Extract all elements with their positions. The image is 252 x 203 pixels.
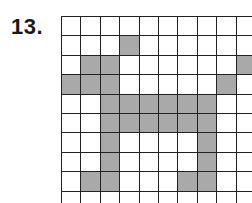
grid-cell — [62, 133, 81, 152]
grid-cell — [237, 172, 252, 191]
grid-cell — [198, 17, 217, 36]
grid-cell — [62, 153, 81, 172]
grid-cell — [178, 133, 197, 152]
grid-cell — [101, 36, 120, 55]
grid-cell-shaded — [159, 114, 178, 133]
grid-cell — [140, 56, 159, 75]
grid-cell — [140, 153, 159, 172]
grid-cell-shaded — [178, 172, 197, 191]
grid-cell-shaded — [120, 114, 139, 133]
grid-cell-shaded — [101, 56, 120, 75]
grid-cell — [237, 95, 252, 114]
grid-cell — [237, 192, 252, 203]
grid-cell — [62, 172, 81, 191]
grid-cell-shaded — [237, 56, 252, 75]
grid-cell-shaded — [178, 114, 197, 133]
grid-cell — [237, 114, 252, 133]
grid-cell — [217, 172, 236, 191]
grid-cell — [120, 153, 139, 172]
grid-cell — [217, 133, 236, 152]
grid-cell-shaded — [198, 114, 217, 133]
grid-cell — [62, 95, 81, 114]
grid-cell — [62, 192, 81, 203]
grid-cell — [81, 36, 100, 55]
grid-cell — [159, 153, 178, 172]
grid-cell-shaded — [217, 75, 236, 94]
grid-cell — [178, 56, 197, 75]
grid-cell — [140, 192, 159, 203]
grid-cell — [62, 36, 81, 55]
grid-cell-shaded — [178, 95, 197, 114]
grid-cell-shaded — [101, 153, 120, 172]
grid-cell — [101, 17, 120, 36]
grid-cell-shaded — [159, 95, 178, 114]
grid-cell — [198, 56, 217, 75]
grid-cell-shaded — [101, 114, 120, 133]
grid-cell — [217, 36, 236, 55]
grid-cell — [217, 56, 236, 75]
grid-cell — [198, 36, 217, 55]
grid-cell — [237, 133, 252, 152]
grid-cell — [159, 56, 178, 75]
grid-cell-shaded — [120, 36, 139, 55]
grid-cell — [217, 17, 236, 36]
grid-cell-shaded — [81, 56, 100, 75]
grid-cell — [81, 133, 100, 152]
grid-cell — [217, 192, 236, 203]
grid-cell — [81, 95, 100, 114]
grid-cell — [62, 56, 81, 75]
problem-number: 13. — [11, 16, 43, 38]
grid-cell — [159, 17, 178, 36]
grid-cell — [217, 114, 236, 133]
grid-cell — [81, 153, 100, 172]
grid-cell — [159, 192, 178, 203]
grid-cell — [120, 133, 139, 152]
grid-cell-shaded — [101, 172, 120, 191]
grid-cell — [178, 36, 197, 55]
grid-cell — [237, 75, 252, 94]
grid-cell — [140, 36, 159, 55]
grid-cell — [120, 75, 139, 94]
grid-cell — [120, 192, 139, 203]
grid-cell — [62, 114, 81, 133]
grid-cell — [140, 75, 159, 94]
grid-cell — [101, 192, 120, 203]
worksheet-page: 13. — [0, 0, 252, 203]
grid-cell-shaded — [198, 95, 217, 114]
grid-cell-shaded — [140, 114, 159, 133]
grid-cell-shaded — [62, 75, 81, 94]
grid-cell — [120, 17, 139, 36]
grid-cell — [62, 17, 81, 36]
grid-cell — [140, 17, 159, 36]
grid-cell — [140, 133, 159, 152]
grid-cell — [178, 192, 197, 203]
grid-cell — [237, 153, 252, 172]
grid-cell-shaded — [101, 95, 120, 114]
grid-cell-shaded — [198, 172, 217, 191]
shading-grid — [61, 16, 252, 203]
grid-cell-shaded — [81, 75, 100, 94]
grid-cell — [198, 75, 217, 94]
grid-cell — [159, 75, 178, 94]
grid-cell — [81, 114, 100, 133]
grid-cell — [178, 17, 197, 36]
grid-cell — [120, 172, 139, 191]
grid-cell — [120, 56, 139, 75]
grid-cell — [159, 36, 178, 55]
grid-cell-shaded — [120, 95, 139, 114]
grid-cell — [159, 133, 178, 152]
grid-cell-shaded — [101, 133, 120, 152]
grid-cell — [178, 153, 197, 172]
grid-cell-shaded — [198, 133, 217, 152]
grid-cell — [81, 17, 100, 36]
grid-cell-shaded — [140, 95, 159, 114]
grid-cell — [217, 153, 236, 172]
grid-cell — [140, 172, 159, 191]
grid-cell — [159, 172, 178, 191]
grid-cell-shaded — [81, 172, 100, 191]
grid-cell-shaded — [198, 153, 217, 172]
grid-cell — [178, 75, 197, 94]
grid-cell — [198, 192, 217, 203]
grid-cell — [217, 95, 236, 114]
grid-cell — [237, 36, 252, 55]
